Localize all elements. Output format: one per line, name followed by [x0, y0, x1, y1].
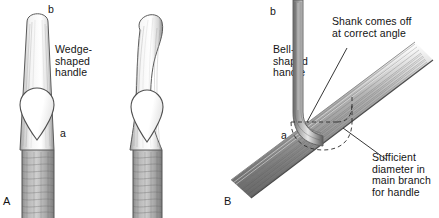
figure-illustration: Wedge- shaped handle b a A — [0, 0, 439, 218]
bell-handle-drawing — [110, 0, 220, 218]
bark-section-b — [132, 150, 163, 218]
caption-wedge-shaped-handle: Wedge- shaped handle — [55, 44, 92, 79]
panel-wedge-shaped-handle: Wedge- shaped handle b a A — [0, 0, 110, 218]
wedge-handle-drawing — [0, 0, 110, 218]
bark-section-a — [21, 150, 55, 218]
panel-label-a: A — [3, 196, 10, 207]
marker-b-panel-a: b — [48, 4, 54, 15]
annotation-sufficient-diameter: Sufficient diameter in main branch for h… — [372, 152, 431, 198]
marker-a-panel-a: a — [60, 128, 66, 139]
panel-branch-junction: Shank comes off at correct angle Suffici… — [219, 0, 439, 218]
annotation-shank-angle: Shank comes off at correct angle — [332, 16, 412, 39]
panel-bell-shaped-handle: Bell- shaped handle b a B — [110, 0, 220, 218]
